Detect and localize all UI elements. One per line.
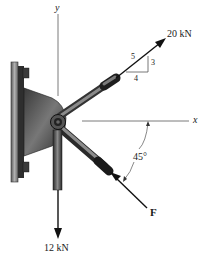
slope-rise-label: 3 (151, 59, 155, 67)
x-axis-label: x (193, 115, 197, 125)
angle-45-label: 45° (133, 152, 147, 162)
statics-diagram: y x 20 kN 5 3 4 12 kN F 45° (0, 0, 203, 274)
upper-member (60, 77, 116, 116)
force-20kn-label: 20 kN (167, 29, 192, 39)
slope-run-label: 4 (134, 75, 138, 83)
lower-member (60, 126, 109, 171)
force-arrow-12kn (54, 190, 62, 239)
force-arrow-f (110, 172, 147, 208)
pin (51, 115, 66, 130)
bolt-icon (23, 68, 29, 78)
arrowhead-icon (110, 172, 121, 181)
arrowhead-icon (54, 228, 62, 239)
force-12kn-label: 12 kN (44, 243, 69, 253)
y-axis-label: y (55, 3, 59, 13)
force-f-label: F (150, 207, 157, 218)
slope-triangle (126, 56, 148, 72)
vertical-member (53, 130, 62, 190)
diagram-graphics (0, 0, 203, 274)
bolt-icon (23, 162, 29, 172)
slope-hyp-label: 5 (131, 53, 135, 61)
